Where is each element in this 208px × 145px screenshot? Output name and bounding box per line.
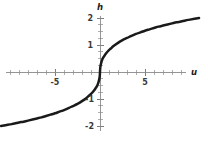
y-tick-label-neg1: -1 — [85, 95, 94, 104]
y-axis-label: h — [97, 2, 103, 12]
chart-svg-canvas: -5 5 2 1 -1 -2 h u — [0, 0, 208, 145]
x-axis-label: u — [191, 67, 197, 77]
y-tick-label-neg2: -2 — [85, 122, 94, 131]
y-tick-label-pos2: 2 — [87, 14, 93, 23]
x-tick-label-neg5: -5 — [51, 78, 60, 87]
y-tick-label-pos1: 1 — [87, 41, 93, 50]
x-tick-label-pos5: 5 — [142, 78, 148, 87]
chart-plot-area: -5 5 2 1 -1 -2 h u — [0, 0, 208, 145]
